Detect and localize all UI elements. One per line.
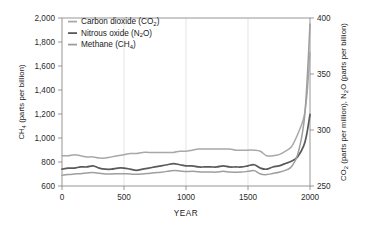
ytick-label-2000: 2,000 bbox=[35, 14, 56, 23]
ytick-label-600: 600 bbox=[41, 182, 55, 191]
right-axis-title-main: CO bbox=[339, 169, 348, 181]
right-axis-title: CO2 (parts per million), N2O (parts per … bbox=[339, 23, 349, 181]
ytick-right-label-250: 250 bbox=[317, 182, 331, 191]
xtick-label-0: 0 bbox=[60, 193, 65, 202]
gridlines bbox=[124, 18, 248, 186]
left-axis-tick-labels: 600 800 1,000 1,200 1,400 1,600 1,800 2,… bbox=[35, 14, 56, 191]
left-axis-ticks bbox=[58, 18, 62, 186]
x-axis-ticks bbox=[62, 186, 310, 190]
right-axis-title-mid: (parts per million), N bbox=[339, 93, 348, 166]
svg-text:CO2 (parts per million), N2O (: CO2 (parts per million), N2O (parts per … bbox=[339, 23, 349, 181]
right-axis-title-tail: O (parts per billion) bbox=[339, 23, 348, 90]
ytick-label-1600: 1,600 bbox=[35, 62, 56, 71]
xtick-label-1000: 1000 bbox=[177, 193, 196, 202]
ytick-label-1000: 1,000 bbox=[35, 134, 56, 143]
ytick-right-label-350: 350 bbox=[317, 70, 331, 79]
greenhouse-gas-chart-figure: 600 800 1,000 1,200 1,400 1,600 1,800 2,… bbox=[0, 0, 365, 231]
left-axis-title-main: CH bbox=[17, 128, 26, 139]
right-axis-ticks bbox=[310, 18, 314, 186]
x-axis-title: YEAR bbox=[174, 209, 199, 218]
right-axis-tick-labels: 250 300 350 400 bbox=[317, 14, 331, 191]
left-axis-title-tail: (parts per billion) bbox=[17, 64, 26, 125]
ytick-label-1200: 1,200 bbox=[35, 110, 56, 119]
xtick-label-2000: 2000 bbox=[301, 193, 320, 202]
x-axis-tick-labels: 0 500 1000 1500 2000 bbox=[60, 193, 320, 202]
ytick-label-800: 800 bbox=[41, 158, 55, 167]
left-axis-title: CH4 (parts per billion) bbox=[17, 64, 27, 140]
svg-text:CH4 (parts per billion): CH4 (parts per billion) bbox=[17, 64, 27, 140]
chart-legend: Carbon dioxide (CO2)Nitrous oxide (N2O)M… bbox=[68, 17, 160, 50]
ytick-label-1800: 1,800 bbox=[35, 38, 56, 47]
ytick-right-label-300: 300 bbox=[317, 126, 331, 135]
legend-label-co2: Carbon dioxide (CO2) bbox=[81, 17, 160, 27]
legend-label-n2o: Nitrous oxide (N2O) bbox=[81, 29, 152, 39]
xtick-label-1500: 1500 bbox=[239, 193, 258, 202]
ytick-right-label-400: 400 bbox=[317, 14, 331, 23]
ytick-label-1400: 1,400 bbox=[35, 86, 56, 95]
legend-label-ch4: Methane (CH4) bbox=[81, 40, 136, 50]
xtick-label-500: 500 bbox=[117, 193, 131, 202]
chart-canvas: 600 800 1,000 1,200 1,400 1,600 1,800 2,… bbox=[0, 0, 365, 231]
